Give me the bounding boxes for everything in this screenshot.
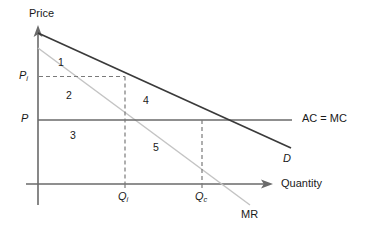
y-axis — [34, 25, 43, 205]
price-label-p-base: P — [21, 112, 28, 124]
x-axis-label: Quantity — [281, 178, 322, 189]
quantity-label-qi-base: Q — [118, 190, 127, 202]
quantity-label-qc-subscript: c — [204, 195, 208, 204]
quantity-label-qi-subscript: i — [127, 195, 129, 204]
region-label-3: 3 — [70, 130, 76, 141]
quantity-label-qc: Qc — [195, 191, 207, 202]
mr-curve-line — [38, 48, 250, 205]
ac-mc-label: AC = MC — [302, 113, 347, 124]
x-axis — [26, 180, 273, 189]
y-axis-label: Price — [29, 8, 54, 19]
economics-diagram: Price Quantity Pi P Qi Qc AC = MC D MR 1… — [0, 0, 374, 232]
quantity-label-qc-base: Q — [195, 190, 204, 202]
quantity-label-qi: Qi — [118, 191, 128, 202]
price-label-pi-subscript: i — [26, 74, 28, 83]
region-label-2: 2 — [66, 90, 72, 101]
region-label-4: 4 — [143, 95, 149, 106]
region-label-1: 1 — [58, 57, 64, 68]
demand-curve-label: D — [283, 153, 291, 164]
mr-curve-label: MR — [241, 209, 258, 220]
price-label-p: P — [21, 113, 28, 124]
region-label-5: 5 — [153, 142, 159, 153]
price-label-pi: Pi — [19, 70, 28, 81]
